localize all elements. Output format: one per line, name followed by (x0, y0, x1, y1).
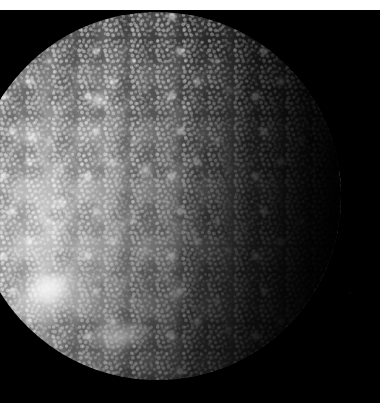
sunlit-limb-arc (0, 12, 341, 380)
top-margin (0, 0, 391, 10)
bottom-margin (0, 403, 391, 411)
space-background (0, 10, 380, 403)
image-canvas (0, 0, 391, 411)
right-margin (380, 0, 391, 411)
callisto-disk (0, 12, 341, 380)
